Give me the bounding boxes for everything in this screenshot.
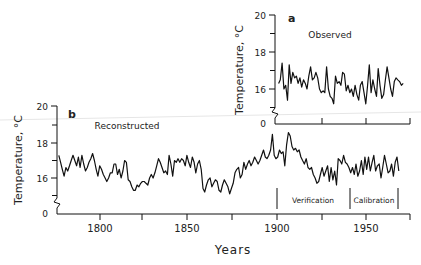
panel-b: b Reconstructed Temperature, °C 20 18 16…	[12, 102, 410, 257]
panel-a-title: Observed	[308, 30, 351, 40]
panel-a-y-ticks	[269, 15, 275, 108]
panel-b-letter: b	[68, 108, 76, 121]
panel-b-xtick-1950: 1950	[353, 223, 378, 234]
panel-a-ytick-20: 20	[255, 11, 267, 21]
scan-artifact-line	[0, 112, 421, 120]
panel-a-y-axis-label: Temperature, °C	[233, 25, 246, 116]
panel-b-x-axis-label: Years	[214, 243, 252, 257]
panel-b-reconstructed-line	[59, 133, 399, 194]
panel-a-observed-line	[279, 63, 404, 104]
verification-label: Verification	[292, 196, 334, 205]
panel-b-ytick-0: 0	[42, 209, 48, 219]
panel-a-letter: a	[288, 12, 295, 25]
panel-b-xtick-1900: 1900	[264, 223, 289, 234]
panel-b-ytick-20: 20	[37, 102, 49, 112]
panel-a-ytick-18: 18	[255, 48, 267, 58]
panel-a: a Observed Temperature, °C 20 18 16 0	[233, 11, 410, 129]
panel-b-ytick-16: 16	[37, 174, 49, 184]
panel-a-ytick-0: 0	[260, 119, 266, 129]
panel-b-xtick-1800: 1800	[87, 223, 112, 234]
panel-b-title: Reconstructed	[95, 121, 160, 131]
figure: a Observed Temperature, °C 20 18 16 0 b …	[0, 0, 421, 265]
panel-b-y-axis-label: Temperature, °C	[12, 115, 25, 206]
panel-a-ytick-16: 16	[255, 85, 267, 95]
calibration-label: Calibration	[354, 196, 395, 205]
panel-b-xtick-1850: 1850	[174, 223, 199, 234]
panel-b-x-ticks	[100, 214, 410, 220]
panel-b-ytick-18: 18	[37, 139, 49, 149]
panel-a-x-ticks	[322, 118, 410, 124]
